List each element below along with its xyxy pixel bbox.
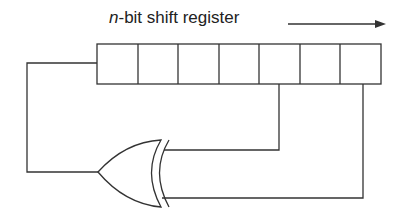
lfsr-diagram [0, 0, 405, 221]
shift-register [97, 44, 381, 84]
tap-wire-1 [164, 84, 279, 150]
xor-gate-body [98, 140, 161, 207]
feedback-wire [27, 63, 98, 172]
tap-wire-2 [162, 84, 363, 198]
arrow-head-icon [375, 20, 386, 28]
